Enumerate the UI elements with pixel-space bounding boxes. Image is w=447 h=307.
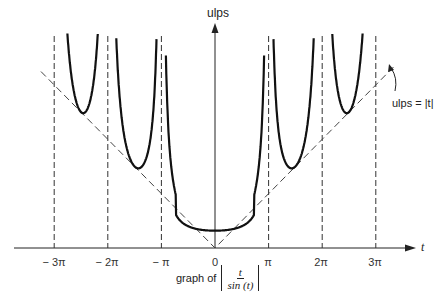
abs-bar-left — [221, 265, 222, 291]
y-axis-label: ulps — [207, 6, 229, 20]
caption-numerator: t — [237, 266, 244, 279]
ulps-equals-abs-t-line — [41, 66, 394, 248]
tick-3pi: 3π — [368, 256, 382, 268]
tick-neg-2pi: − 2π — [95, 256, 118, 268]
x-axis-label: t — [421, 240, 424, 255]
tick-neg-3pi: − 3π — [42, 256, 65, 268]
tick-pi: π — [264, 256, 272, 268]
chart-caption: graph of t sin (t) — [176, 265, 262, 291]
annotation-arrow — [391, 68, 396, 91]
abs-bar-right — [258, 265, 259, 291]
tick-2pi: 2π — [314, 256, 328, 268]
caption-fraction: t sin (t) — [225, 266, 255, 291]
x-axis-arrow-icon — [405, 245, 416, 252]
y-axis-arrow-icon — [212, 23, 219, 33]
annotation-label: ulps = |t| — [392, 97, 434, 109]
tick-neg-pi: − π — [152, 256, 169, 268]
caption-prefix: graph of — [176, 272, 216, 284]
caption-denominator: sin (t) — [225, 279, 255, 291]
